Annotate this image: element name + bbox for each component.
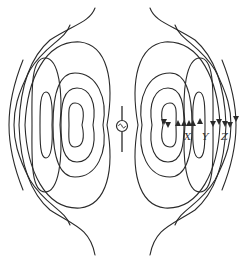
- label-y: Y: [202, 132, 209, 142]
- label-z: Z: [221, 132, 228, 142]
- arrowhead-icon: [161, 116, 239, 128]
- ac-source-icon: [117, 121, 128, 132]
- label-x: X: [184, 132, 191, 142]
- left-field-lines: [9, 8, 110, 255]
